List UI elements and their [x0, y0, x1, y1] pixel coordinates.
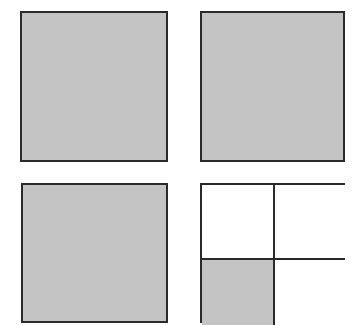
divider-horizontal	[202, 258, 345, 260]
quarter-top-right	[275, 185, 345, 258]
quarter-top-left	[202, 185, 273, 258]
square-bottom-right-quartered	[200, 183, 345, 323]
square-bottom-left	[21, 183, 168, 323]
quarter-bottom-left-shaded	[202, 260, 273, 325]
divider-vertical	[273, 185, 275, 325]
quarter-bottom-right	[275, 260, 345, 325]
square-top-left	[20, 11, 168, 162]
square-top-right	[200, 11, 345, 162]
